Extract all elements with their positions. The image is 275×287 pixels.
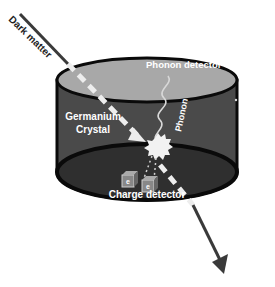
germanium-label-line2: Crystal (76, 124, 110, 135)
dark-matter-detector-diagram: e e Dark matter Phonon detector Phonon G… (0, 0, 275, 287)
germanium-label-line1: Germanium (65, 111, 121, 122)
speck-dot (235, 99, 237, 101)
charge-detector-label: Charge detector (109, 189, 186, 200)
charge-detector-cube-1: e (122, 171, 138, 187)
dark-matter-label: Dark matter (7, 14, 55, 61)
phonon-detector-label: Phonon detector (146, 59, 222, 70)
dark-matter-outgoing-line (193, 205, 221, 262)
svg-text:e: e (126, 178, 130, 185)
